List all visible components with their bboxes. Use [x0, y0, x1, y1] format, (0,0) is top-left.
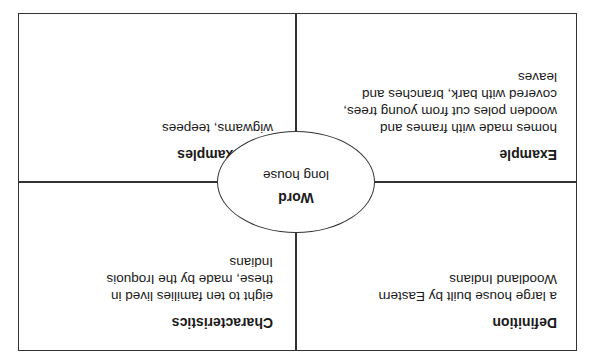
word-text: long house: [218, 167, 374, 184]
word-title: Word: [218, 190, 374, 206]
frayer-model-diagram: Definition a large house built by Easter…: [0, 0, 593, 361]
definition-title: Definition: [311, 315, 557, 331]
characteristics-text: eight to ten families lived in these, ma…: [73, 254, 273, 305]
definition-text: a large house built by Eastern Woodland …: [357, 271, 557, 305]
word-ellipse: Word long house: [217, 131, 375, 233]
non-examples-text: wigwams, teepees: [33, 120, 273, 137]
example-text: homes made with frames and wooden poles …: [332, 69, 557, 137]
characteristics-title: Characteristics: [33, 315, 273, 331]
